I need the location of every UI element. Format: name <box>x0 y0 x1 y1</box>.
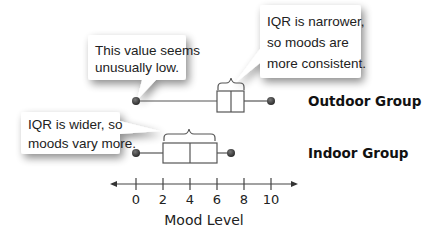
tick-label-6: 6 <box>213 192 221 207</box>
tick-label-0: 0 <box>132 192 140 207</box>
indoor-group-label: Indoor Group <box>308 145 409 161</box>
callout-low-value-line-2: unusually low. <box>95 60 179 75</box>
outdoor-min-dot <box>132 97 140 105</box>
outdoor-group-label: Outdoor Group <box>308 93 422 109</box>
callout-low-value-line-1: This value seems <box>95 43 200 58</box>
tick-label-8: 8 <box>240 192 248 207</box>
axis-right-arrow-icon <box>291 181 298 187</box>
axis-left-arrow-icon <box>110 181 117 187</box>
tick-label-4: 4 <box>186 192 194 207</box>
outdoor-box-plot <box>136 78 271 112</box>
outdoor-max-dot <box>267 97 275 105</box>
tick-label-10: 10 <box>263 192 280 207</box>
box-plot-figure: This value seems unusually low. IQR is n… <box>0 0 423 235</box>
tick-label-2: 2 <box>159 192 167 207</box>
x-axis <box>112 178 296 190</box>
callout-wide-iqr-line-1: IQR is wider, so <box>28 117 123 132</box>
indoor-min-dot <box>132 149 140 157</box>
callout-narrow-iqr-line-1: IQR is narrower, <box>267 14 365 29</box>
callout-narrow-iqr-line-2: so moods are <box>267 35 349 50</box>
outdoor-iqr-brace <box>218 78 244 90</box>
x-axis-title: Mood Level <box>164 212 244 228</box>
indoor-iqr-brace <box>164 129 215 141</box>
indoor-max-dot <box>227 149 235 157</box>
callout-wide-iqr-line-2: moods vary more. <box>28 136 136 151</box>
indoor-box-plot <box>136 129 231 163</box>
callout-narrow-iqr-line-3: more consistent. <box>267 56 366 71</box>
